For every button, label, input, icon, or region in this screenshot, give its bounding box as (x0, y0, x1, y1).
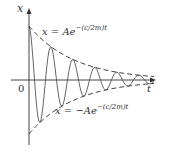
lower-exponent: −(c/2m)t (97, 103, 129, 111)
origin-label: 0 (18, 84, 24, 94)
upper-base: e (70, 26, 76, 37)
lower-eq: = −A (64, 105, 91, 116)
upper-exponent: −(c/2m)t (76, 24, 108, 32)
upper-envelope-label: x = Ae−(c/2m)t (42, 27, 107, 37)
upper-lhs: x (42, 26, 48, 37)
lower-lhs: x (55, 105, 61, 116)
lower-envelope-label: x = −Ae−(c/2m)t (55, 106, 128, 116)
y-axis-label: x (17, 3, 23, 14)
upper-eq: = A (51, 26, 70, 37)
t-axis-label: t (147, 84, 151, 94)
y-arrow-icon (27, 8, 32, 14)
